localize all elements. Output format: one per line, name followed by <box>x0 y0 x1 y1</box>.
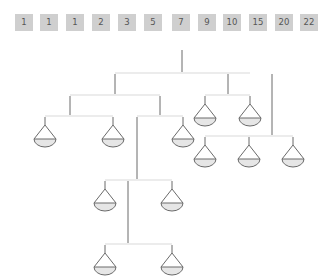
scale-pan[interactable] <box>239 96 261 126</box>
scale-pan[interactable] <box>238 137 260 167</box>
scale-pan[interactable] <box>194 96 216 126</box>
scale-pan[interactable] <box>282 137 304 167</box>
scale-pan[interactable] <box>172 117 194 147</box>
scale-pan[interactable] <box>194 137 216 167</box>
scale-pan[interactable] <box>94 245 116 275</box>
balance-tree <box>0 0 329 277</box>
scale-pan[interactable] <box>102 117 124 147</box>
scale-pan[interactable] <box>161 181 183 211</box>
scale-pan[interactable] <box>94 181 116 211</box>
scale-pan[interactable] <box>161 245 183 275</box>
scale-pan[interactable] <box>34 117 56 147</box>
